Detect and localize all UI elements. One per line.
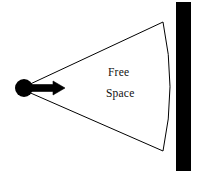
- wall-barrier: [176, 2, 191, 171]
- free-space-diagram: Free Space: [0, 0, 201, 173]
- cone-lower-edge: [26, 91, 163, 151]
- cone-upper-edge: [26, 22, 163, 86]
- arrow-body: [28, 81, 65, 95]
- cone-wavefront-arc: [163, 22, 170, 151]
- free-space-label-line2: Space: [106, 87, 134, 100]
- propagation-arrow-icon: [28, 81, 65, 95]
- free-space-label-line1: Free: [108, 66, 129, 78]
- diagram-canvas: Free Space: [0, 0, 201, 173]
